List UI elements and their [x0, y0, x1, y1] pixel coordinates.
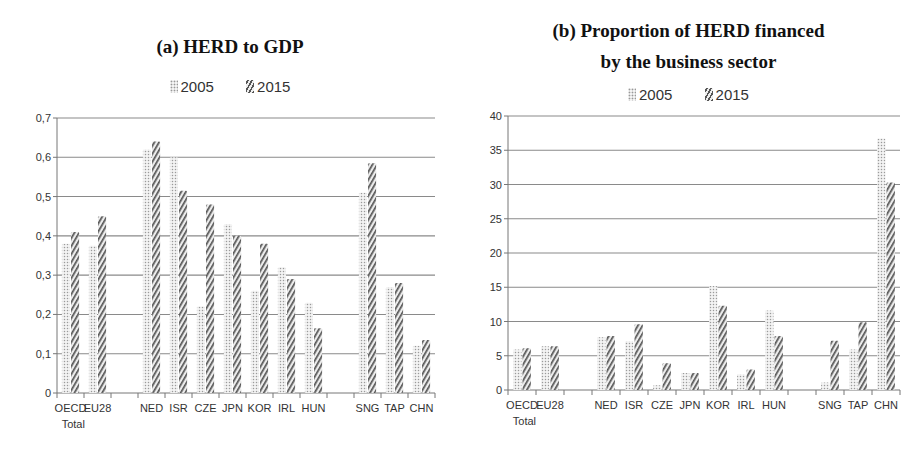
bar-2005-chn — [413, 346, 421, 393]
bar-2005-tap — [849, 350, 857, 390]
y-tick-label: 35 — [490, 144, 502, 156]
bar-2015-chn — [422, 340, 430, 393]
x-category-label: HUN — [762, 399, 786, 411]
x-category-label: NED — [594, 399, 617, 411]
y-tick-label: 0,7 — [36, 112, 51, 124]
chart-panel-herd-to-gdp: (a) HERD to GDP 2005 2015 00,10,20,30,40… — [0, 0, 460, 462]
bar-2015-hun — [314, 328, 322, 393]
x-category-label: EU28 — [84, 402, 112, 414]
x-category-label: OECD — [55, 402, 87, 414]
bar-2015-sng — [368, 163, 376, 393]
chart-panel-herd-business-share: (b) Proportion of HERD financed by the b… — [460, 0, 917, 462]
bar-2005-jpn — [224, 224, 232, 393]
bar-2015-kor — [260, 244, 268, 393]
bar-2005-kor — [709, 286, 717, 390]
bar-2015-tap — [859, 322, 867, 390]
bar-2005-eu28 — [541, 346, 549, 390]
x-category-label: JPN — [222, 402, 243, 414]
x-category-label: SNG — [818, 399, 842, 411]
bar-2005-eu28 — [89, 246, 97, 393]
bar-2015-hun — [775, 336, 783, 390]
bar-2015-isr — [635, 324, 643, 390]
x-category-label-line2: Total — [62, 418, 85, 430]
y-tick-label: 0,3 — [36, 269, 51, 281]
x-category-label: CZE — [195, 402, 217, 414]
x-category-label: CHN — [410, 402, 434, 414]
y-tick-label: 0,2 — [36, 308, 51, 320]
bar-2015-chn — [887, 182, 895, 390]
y-tick-label: 10 — [490, 316, 502, 328]
y-tick-label: 0,5 — [36, 191, 51, 203]
bar-2005-chn — [877, 139, 885, 390]
x-category-label: HUN — [302, 402, 326, 414]
bar-2015-kor — [719, 306, 727, 390]
bar-2005-irl — [278, 267, 286, 393]
bar-2015-ned — [607, 336, 615, 390]
bar-2005-ned — [143, 149, 151, 393]
x-category-label: EU28 — [536, 399, 564, 411]
bar-2005-sng — [821, 382, 829, 390]
bar-2005-sng — [359, 193, 367, 393]
bar-2015-jpn — [691, 373, 699, 390]
bar-2015-eu28 — [551, 346, 559, 390]
bar-2015-irl — [747, 369, 755, 390]
bar-2015-oecd-total — [71, 232, 79, 393]
bar-2015-irl — [287, 279, 295, 393]
bar-2005-oecd-total — [513, 350, 521, 390]
y-tick-label: 30 — [490, 179, 502, 191]
y-tick-label: 40 — [490, 110, 502, 122]
bar-2015-jpn — [233, 236, 241, 393]
x-category-label: KOR — [248, 402, 272, 414]
x-category-label: KOR — [706, 399, 730, 411]
bar-2005-hun — [305, 303, 313, 393]
y-tick-label: 5 — [496, 350, 502, 362]
y-tick-label: 0,1 — [36, 348, 51, 360]
x-category-label: IRL — [737, 399, 754, 411]
bar-2005-hun — [765, 311, 773, 390]
x-category-label: CZE — [651, 399, 673, 411]
bar-2005-isr — [170, 157, 178, 393]
y-tick-label: 0 — [496, 384, 502, 396]
bar-2005-ned — [597, 337, 605, 390]
bar-2005-jpn — [681, 373, 689, 390]
bar-chart-plot: 0510152025303540OECDTotalEU28NEDISRCZEJP… — [460, 0, 917, 462]
bar-2005-tap — [386, 287, 394, 393]
x-category-label: OECD — [506, 399, 538, 411]
bar-2005-irl — [737, 374, 745, 390]
y-tick-label: 15 — [490, 281, 502, 293]
bar-2015-eu28 — [98, 216, 106, 393]
y-tick-label: 0 — [45, 387, 51, 399]
bar-2015-oecd-total — [523, 348, 531, 390]
bar-2015-sng — [831, 341, 839, 390]
x-category-label: TAP — [848, 399, 869, 411]
y-tick-label: 0,6 — [36, 151, 51, 163]
y-tick-label: 20 — [490, 247, 502, 259]
x-category-label: ISR — [169, 402, 187, 414]
x-category-label: JPN — [680, 399, 701, 411]
bar-2015-isr — [179, 191, 187, 393]
bar-2005-cze — [653, 385, 661, 390]
bar-chart-plot: 00,10,20,30,40,50,60,7OECDTotalEU28NEDIS… — [0, 0, 460, 462]
bar-2005-kor — [251, 291, 259, 393]
x-category-label: ISR — [625, 399, 643, 411]
bar-2005-oecd-total — [62, 244, 70, 393]
x-category-label: CHN — [874, 399, 898, 411]
bar-2015-tap — [395, 283, 403, 393]
y-tick-label: 0,4 — [36, 230, 51, 242]
bar-2005-isr — [625, 341, 633, 390]
bar-2015-cze — [663, 363, 671, 390]
x-category-label: IRL — [278, 402, 295, 414]
bar-2015-cze — [206, 204, 214, 393]
x-category-label: NED — [140, 402, 163, 414]
bar-2015-ned — [152, 142, 160, 393]
x-category-label: SNG — [356, 402, 380, 414]
x-category-label-line2: Total — [513, 415, 536, 427]
x-category-label: TAP — [384, 402, 405, 414]
y-tick-label: 25 — [490, 213, 502, 225]
bar-2005-cze — [197, 307, 205, 393]
